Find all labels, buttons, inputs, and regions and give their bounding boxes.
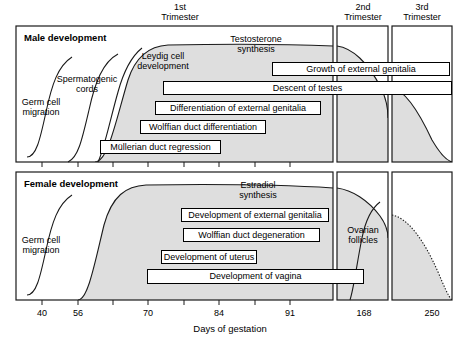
male-germ-cell-line1: Germ cell: [8, 97, 74, 107]
male-axis-ticks: [42, 162, 290, 167]
trimester-1-line1: 1st: [150, 2, 210, 12]
trimester-3-line2: Trimester: [392, 12, 452, 22]
female-germ-cell-line2: migration: [8, 245, 74, 255]
trimester-2-line2: Trimester: [333, 12, 393, 22]
x-tick-label-40: 40: [27, 308, 57, 318]
male-leydig-line1: Leydig cell: [128, 51, 198, 61]
trimester-3-line1: 3rd: [392, 2, 452, 12]
trimester-1-line2: Trimester: [150, 12, 210, 22]
x-tick-label-56: 56: [63, 308, 93, 318]
male-germ-cell-line2: migration: [8, 107, 74, 117]
x-tick-label-91: 91: [275, 308, 305, 318]
male-bar-mullerian-duct-regression: Müllerian duct regression: [100, 140, 221, 154]
x-tick-label-84: 84: [204, 308, 234, 318]
male-testosterone-line2: synthesis: [216, 44, 296, 54]
x-axis-title: Days of gestation: [0, 324, 460, 335]
x-tick-label-168: 168: [349, 308, 379, 318]
male-spermatogenic-line2: cords: [47, 84, 127, 94]
male-bar-differentiation-of-external-genitalia: Differentiation of external genitalia: [155, 101, 321, 115]
male-spermatogenic-line1: Spermatogenic: [47, 74, 127, 84]
male-testosterone-line1: Testosterone: [216, 34, 296, 44]
male-leydig-line2: development: [128, 61, 198, 71]
trimester-2-line1: 2nd: [333, 2, 393, 12]
female-estradiol-line1: Estradiol: [223, 180, 293, 190]
figure-canvas: 1st Trimester 2nd Trimester 3rd Trimeste…: [0, 0, 460, 338]
male-germ-cell-migration-label: Germ cell migration: [8, 97, 74, 117]
female-germ-cell-migration-label: Germ cell migration: [8, 235, 74, 255]
female-estradiol-synthesis-label: Estradiol synthesis: [223, 180, 293, 200]
x-tick-label-250: 250: [417, 308, 447, 318]
male-spermatogenic-cords-label: Spermatogenic cords: [47, 74, 127, 94]
female-bar-wolffian-duct-degeneration: Wolffian duct degeneration: [183, 228, 320, 242]
trimester-header-1: 1st Trimester: [150, 2, 210, 22]
female-bar-development-of-vagina: Development of vagina: [147, 269, 364, 284]
trimester-header-3: 3rd Trimester: [392, 2, 452, 22]
female-estradiol-line2: synthesis: [223, 190, 293, 200]
female-axis-ticks: [42, 300, 290, 305]
male-bar-wolffian-duct-differentiation: Wolffian duct differentiation: [140, 120, 266, 134]
female-estradiol-area-t3: [392, 215, 452, 300]
female-germ-cell-line1: Germ cell: [8, 235, 74, 245]
male-testosterone-area-t3: [392, 88, 452, 162]
female-ovarian-line2: follicles: [340, 235, 386, 245]
female-bar-development-of-external-genitalia: Development of external genitalia: [181, 208, 329, 222]
male-panel-title: Male development: [24, 33, 106, 44]
female-bar-development-of-uterus: Development of uterus: [161, 250, 257, 264]
male-leydig-cell-label: Leydig cell development: [128, 51, 198, 71]
female-ovarian-follicles-label: Ovarian follicles: [340, 225, 386, 245]
trimester-header-2: 2nd Trimester: [333, 2, 393, 22]
x-tick-label-70: 70: [133, 308, 163, 318]
male-bar-growth-of-external-genitalia: Growth of external genitalia: [272, 62, 450, 76]
female-panel-title: Female development: [24, 179, 118, 190]
female-ovarian-line1: Ovarian: [340, 225, 386, 235]
male-testosterone-synthesis-label: Testosterone synthesis: [216, 34, 296, 54]
male-bar-descent-of-testes: Descent of testes: [163, 81, 452, 95]
